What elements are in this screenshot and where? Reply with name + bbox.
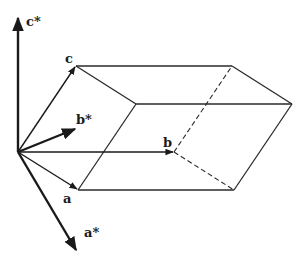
label-c: c <box>65 51 73 66</box>
lattice-diagram: c* c b* b a a* <box>0 0 304 265</box>
label-a: a <box>63 191 72 206</box>
edge-ab-to-abc <box>234 104 292 190</box>
label-b-star: b* <box>76 112 92 127</box>
unit-cell <box>76 66 292 190</box>
label-c-star: c* <box>26 14 41 29</box>
label-a-star: a* <box>84 225 99 240</box>
hidden-edge-b-to-ab <box>174 152 234 190</box>
label-b: b <box>163 135 172 150</box>
edge-c-to-ac <box>76 66 136 104</box>
edge-bc-to-abc <box>232 66 292 104</box>
direct-vectors <box>18 67 173 189</box>
hidden-edge-b-to-bc <box>174 66 232 152</box>
vector-a <box>18 152 77 189</box>
